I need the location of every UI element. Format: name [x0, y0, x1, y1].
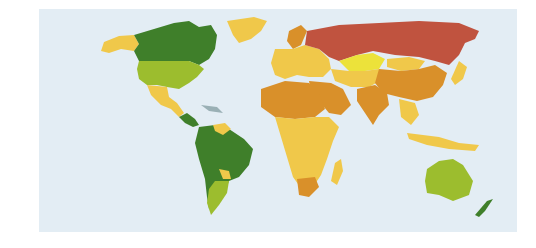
region-madagascar — [331, 159, 343, 185]
region-central-america — [179, 113, 199, 127]
region-mongolia — [387, 57, 425, 71]
region-australia — [425, 159, 473, 201]
region-new-zealand — [475, 199, 493, 217]
region-russia — [305, 21, 479, 65]
region-canada — [134, 21, 217, 65]
region-indonesia — [407, 133, 479, 151]
region-central-asia — [331, 69, 383, 87]
region-mexico — [147, 85, 184, 117]
region-japan — [451, 61, 467, 85]
world-map — [39, 9, 517, 232]
region-usa — [137, 61, 204, 89]
region-south-africa — [297, 177, 319, 197]
region-caribbean — [201, 105, 223, 113]
region-alaska — [101, 35, 139, 53]
region-greenland — [227, 17, 267, 43]
region-southeast-asia — [399, 99, 419, 125]
world-map-svg — [39, 9, 517, 232]
